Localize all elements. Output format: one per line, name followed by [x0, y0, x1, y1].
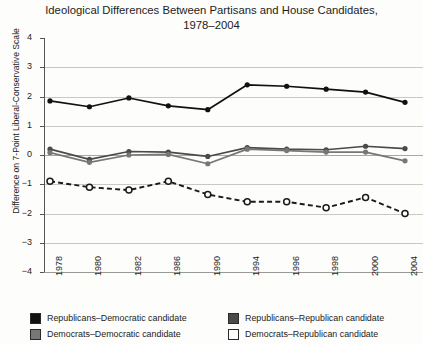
data-point — [166, 103, 171, 108]
legend-label: Republicans–Republican candidate — [245, 313, 384, 323]
data-point — [245, 147, 250, 152]
chart-legend: Republicans–Democratic candidateRepublic… — [30, 310, 423, 342]
data-point — [284, 148, 289, 153]
data-point — [47, 150, 52, 155]
data-point — [363, 90, 368, 95]
data-point — [86, 184, 92, 190]
legend-item[interactable]: Republicans–Democratic candidate — [30, 310, 220, 326]
series-line — [50, 85, 405, 110]
legend-label: Democrats–Republican candidate — [245, 329, 378, 339]
y-tick-label: −3 — [2, 237, 32, 247]
y-tick-label: 2 — [2, 91, 32, 101]
legend-label: Republicans–Democratic candidate — [47, 313, 187, 323]
chart-title: Ideological Differences Between Partisan… — [0, 3, 423, 32]
legend-item[interactable]: Republicans–Republican candidate — [228, 310, 418, 326]
data-point — [363, 149, 368, 154]
legend-swatch — [228, 329, 239, 340]
data-point — [402, 158, 407, 163]
data-point — [205, 107, 210, 112]
data-point — [402, 146, 407, 151]
data-point — [284, 84, 289, 89]
x-tick-label: 1982 — [133, 256, 143, 276]
data-point — [165, 178, 171, 184]
data-point — [126, 187, 132, 193]
data-point — [323, 205, 329, 211]
series-line — [50, 181, 405, 213]
chart-title-line1: Ideological Differences Between Partisan… — [45, 4, 378, 16]
y-tick-label: 4 — [2, 32, 32, 42]
data-point — [126, 95, 131, 100]
legend-swatch — [30, 329, 41, 340]
y-tick-label: −2 — [2, 208, 32, 218]
legend-swatch — [30, 313, 41, 324]
data-point — [284, 199, 290, 205]
chart-container: Ideological Differences Between Partisan… — [0, 0, 423, 344]
data-point — [402, 100, 407, 105]
y-tick-label: −4 — [2, 266, 32, 276]
legend-item[interactable]: Democrats–Republican candidate — [228, 326, 418, 342]
data-point — [324, 149, 329, 154]
legend-label: Democrats–Democratic candidate — [47, 329, 181, 339]
data-point — [205, 191, 211, 197]
data-point — [363, 144, 368, 149]
legend-item[interactable]: Democrats–Democratic candidate — [30, 326, 220, 342]
data-point — [324, 87, 329, 92]
x-tick-label: 1998 — [330, 256, 340, 276]
data-series-layer — [44, 38, 423, 272]
y-tick-label: 1 — [2, 120, 32, 130]
data-point — [87, 160, 92, 165]
data-point — [47, 178, 53, 184]
y-tick-label: −1 — [2, 178, 32, 188]
x-tick-label: 1990 — [212, 256, 222, 276]
data-point — [245, 82, 250, 87]
data-point — [166, 152, 171, 157]
data-point — [363, 194, 369, 200]
x-tick-label: 1978 — [54, 256, 64, 276]
y-tick-label: 3 — [2, 61, 32, 71]
data-point — [87, 104, 92, 109]
y-tick-label: 0 — [2, 149, 32, 159]
data-point — [205, 161, 210, 166]
x-tick-label: 1994 — [251, 256, 261, 276]
x-tick-label: 1980 — [93, 256, 103, 276]
data-point — [126, 152, 131, 157]
data-point — [402, 211, 408, 217]
x-tick-label: 1996 — [291, 256, 301, 276]
data-point — [205, 154, 210, 159]
data-point — [244, 199, 250, 205]
x-tick-label: 2000 — [370, 256, 380, 276]
data-point — [47, 98, 52, 103]
chart-title-line2: 1978–2004 — [183, 19, 240, 31]
legend-swatch — [228, 313, 239, 324]
x-tick-label: 1986 — [172, 256, 182, 276]
x-tick-label: 2004 — [409, 256, 419, 276]
